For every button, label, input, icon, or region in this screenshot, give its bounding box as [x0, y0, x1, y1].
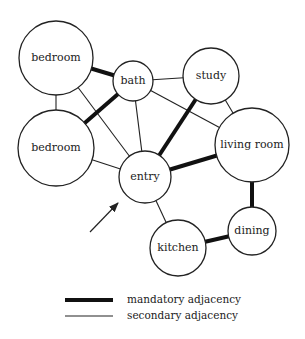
legend: mandatory adjacency secondary adjacency	[65, 293, 241, 321]
room-label: bath	[120, 74, 145, 87]
room-living: living room	[215, 108, 289, 182]
room-entry: entry	[119, 151, 171, 203]
room-bath: bath	[113, 61, 153, 101]
legend-mandatory-label: mandatory adjacency	[127, 293, 241, 305]
room-label: bedroom	[31, 141, 81, 154]
room-label: entry	[130, 170, 160, 183]
room-kitchen: kitchen	[150, 220, 206, 276]
room-label: kitchen	[157, 241, 198, 254]
room-label: bedroom	[31, 51, 81, 64]
room-label: dining	[234, 224, 269, 237]
room-study: study	[183, 48, 239, 104]
room-dining: dining	[228, 207, 276, 255]
adjacency-diagram: bedroombedroombathstudyliving roomentryd…	[0, 0, 305, 339]
room-label: study	[196, 69, 227, 82]
room-bedroom2: bedroom	[18, 110, 94, 186]
room-bedroom1: bedroom	[19, 21, 93, 95]
legend-secondary-label: secondary adjacency	[127, 309, 238, 321]
entry-arrow-icon	[90, 203, 118, 232]
room-label: living room	[220, 138, 284, 151]
room-bubbles: bedroombedroombathstudyliving roomentryd…	[18, 21, 289, 276]
